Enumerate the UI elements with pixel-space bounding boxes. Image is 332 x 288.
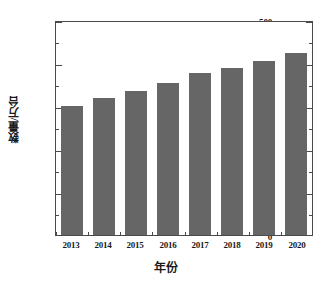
- bar-2017: [189, 73, 211, 235]
- bar-2013: [61, 106, 83, 236]
- bar-2016: [157, 83, 179, 235]
- bar-2020: [285, 53, 307, 235]
- bar-2019: [253, 61, 275, 235]
- plot-area: [55, 21, 313, 236]
- bar-chart-figure: 数量/万台 500 400 300 200 100 0: [0, 0, 332, 288]
- x-tick-minor-8: [312, 232, 313, 235]
- bar-2018: [221, 68, 243, 235]
- x-axis-title: 年份: [0, 258, 332, 276]
- x-tick-label-2020: 2020: [277, 240, 317, 250]
- bar-2015: [125, 91, 147, 235]
- bar-2014: [93, 98, 115, 235]
- bar-series: [56, 22, 312, 235]
- y-tick-right-0: [306, 235, 312, 236]
- y-axis-title: 数量/万台: [6, 96, 22, 143]
- y-tick-0: [56, 235, 62, 236]
